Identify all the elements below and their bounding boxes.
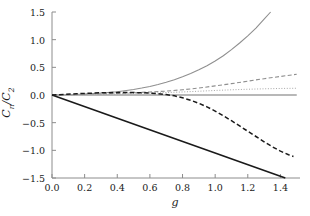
x-axis-ticks bbox=[52, 174, 280, 178]
x-tick-label: 0.8 bbox=[175, 182, 190, 193]
y-axis-label-sub-n: n bbox=[7, 104, 16, 109]
y-tick-label: 1.0 bbox=[0, 34, 45, 45]
y-axis-label-c: C bbox=[0, 109, 13, 117]
x-tick-label: 1.4 bbox=[273, 182, 288, 193]
x-axis-label: g bbox=[171, 196, 178, 209]
y-axis-label-sub-2: 2 bbox=[7, 88, 16, 93]
series-line-black-dashed-falling bbox=[52, 93, 293, 157]
y-axis-label: Cn/C2 bbox=[0, 73, 15, 133]
x-tick-label: 0.2 bbox=[77, 182, 92, 193]
y-tick-label: −1.5 bbox=[0, 173, 45, 184]
y-axis-label-slash-c: /C bbox=[0, 92, 13, 104]
series-line-black-solid-linear bbox=[52, 95, 285, 178]
chart-figure: 0.00.20.40.60.81.01.21.4 1.51.00.50.0−0.… bbox=[0, 0, 310, 216]
x-tick-label: 0.4 bbox=[110, 182, 125, 193]
data-series-group bbox=[52, 12, 297, 178]
x-tick-label: 0.6 bbox=[142, 182, 157, 193]
x-tick-label: 1.0 bbox=[208, 182, 223, 193]
x-tick-label: 0.0 bbox=[44, 182, 59, 193]
y-tick-label: −1.0 bbox=[0, 145, 45, 156]
y-tick-label: 0.5 bbox=[0, 62, 45, 73]
x-tick-label: 1.2 bbox=[240, 182, 255, 193]
y-tick-label: 1.5 bbox=[0, 7, 45, 18]
